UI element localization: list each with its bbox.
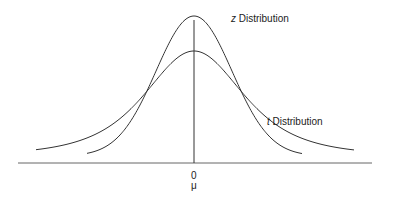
mu-label: μ — [191, 180, 197, 191]
t-label-text: Distribution — [270, 116, 323, 127]
z-distribution-label: z Distribution — [231, 13, 289, 24]
distribution-diagram — [0, 0, 395, 202]
t-distribution-label: t Distribution — [267, 116, 323, 127]
t-distribution-curve — [36, 51, 354, 150]
z-label-text: Distribution — [236, 13, 289, 24]
